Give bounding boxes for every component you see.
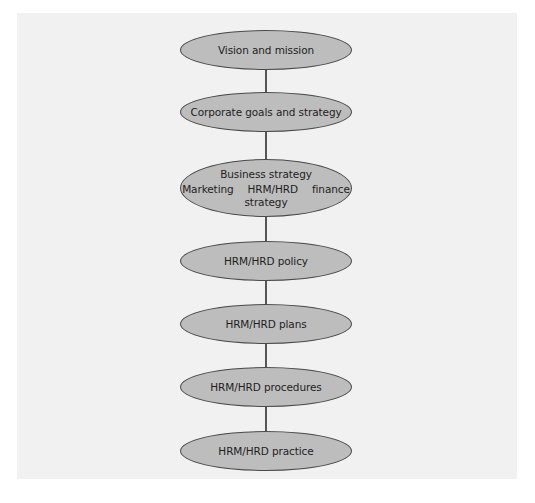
node-label: HRM/HRD practice xyxy=(218,445,313,458)
sub-item-marketing: Marketing xyxy=(182,183,233,196)
connector-policy-plans xyxy=(265,281,267,304)
connector-procedures-practice xyxy=(265,407,267,431)
connector-vision-corporate xyxy=(265,70,267,92)
sub-item-finance: finance xyxy=(312,183,350,196)
node-hrm-hrd-practice: HRM/HRD practice xyxy=(180,431,352,471)
node-corporate-goals-and-strategy: Corporate goals and strategy xyxy=(180,92,352,132)
sub-suffix: strategy xyxy=(245,196,288,209)
node-label: Vision and mission xyxy=(218,44,314,57)
node-hrm-hrd-plans: HRM/HRD plans xyxy=(180,304,352,344)
connector-plans-procedures xyxy=(265,344,267,367)
node-label: HRM/HRD policy xyxy=(224,255,308,268)
business-sub-strategies: Marketing HRM/HRD finance xyxy=(182,183,350,196)
node-label: HRM/HRD procedures xyxy=(210,381,321,394)
connector-corporate-business xyxy=(265,132,267,159)
node-label: Corporate goals and strategy xyxy=(190,106,341,119)
node-hrm-hrd-policy: HRM/HRD policy xyxy=(180,241,352,281)
node-label: Business strategy xyxy=(220,168,312,181)
node-business-strategy: Business strategy Marketing HRM/HRD fina… xyxy=(180,159,352,217)
node-label: HRM/HRD plans xyxy=(225,318,306,331)
node-vision-and-mission: Vision and mission xyxy=(180,30,352,70)
connector-business-policy xyxy=(265,217,267,241)
node-hrm-hrd-procedures: HRM/HRD procedures xyxy=(180,367,352,407)
sub-item-hrm-hrd: HRM/HRD xyxy=(248,183,298,196)
